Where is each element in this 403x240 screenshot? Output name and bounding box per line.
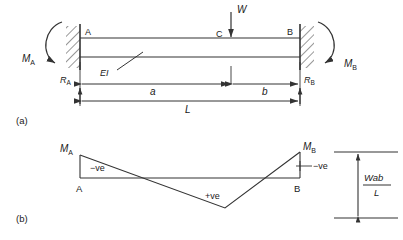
stiffness-label-ei: EI xyxy=(100,68,109,78)
reaction-a-label-group: RA xyxy=(60,75,72,86)
fixed-support-left xyxy=(66,24,80,70)
reaction-arrow-ra: RA xyxy=(60,75,80,104)
load-label-w: W xyxy=(237,4,248,15)
reaction-b-sub: B xyxy=(311,79,315,86)
bmd-ordinate-numerator: Wab xyxy=(364,172,383,183)
bmd-point-a-label: A xyxy=(76,183,83,194)
bmd-panel: MA MB A B −ve −ve +ve Wab L (b) xyxy=(16,141,398,224)
moment-arrow-mb: MB xyxy=(318,22,357,71)
beam-point-b-label: B xyxy=(287,27,293,37)
beam-point-c-label: C xyxy=(216,29,223,39)
moment-a-label-group: MA xyxy=(22,53,35,66)
stiffness-annotation-ei: EI xyxy=(100,52,143,78)
load-arrow-w: W xyxy=(231,4,248,37)
beam-body xyxy=(80,38,300,57)
dimension-l: L xyxy=(82,101,298,115)
dimension-a: a xyxy=(82,84,229,97)
beam-panel: A B C W EI MA MB xyxy=(16,4,357,126)
moment-a-sub: A xyxy=(30,59,35,66)
dimension-l-label: L xyxy=(185,104,191,115)
engineering-figure: A B C W EI MA MB xyxy=(0,0,403,240)
reaction-a-sub: A xyxy=(67,79,72,86)
moment-arrow-ma: MA xyxy=(22,22,62,66)
dimension-b-label: b xyxy=(262,86,268,97)
bmd-moment-b-label-group: MB xyxy=(303,141,316,154)
reaction-b-label-group: RB xyxy=(304,75,315,86)
panel-label-b: (b) xyxy=(16,213,28,224)
bmd-moment-b-sub: B xyxy=(311,147,316,154)
fixed-support-right xyxy=(300,24,314,70)
bmd-negative-right-annotation: −ve xyxy=(296,161,328,171)
bmd-positive-label: +ve xyxy=(205,191,220,201)
bmd-ordinate-scale: Wab L xyxy=(334,152,398,218)
bmd-moment-a-label-group: MA xyxy=(60,143,73,156)
moment-b-label-group: MB xyxy=(344,58,357,71)
bmd-moment-a-sub: A xyxy=(68,149,73,156)
bmd-negative-left-label: −ve xyxy=(90,163,105,173)
dimension-b: b xyxy=(233,84,298,97)
bmd-point-b-label: B xyxy=(294,183,300,194)
bmd-negative-right-label: −ve xyxy=(313,161,328,171)
moment-b-sub: B xyxy=(352,64,357,71)
panel-label-a: (a) xyxy=(16,115,28,126)
beam-point-a-label: A xyxy=(85,27,91,37)
reaction-arrow-rb: RB xyxy=(300,75,315,104)
bmd-ordinate-denominator: L xyxy=(374,187,379,198)
bmd-moment-curve xyxy=(80,152,300,208)
dimension-a-label: a xyxy=(150,86,156,97)
